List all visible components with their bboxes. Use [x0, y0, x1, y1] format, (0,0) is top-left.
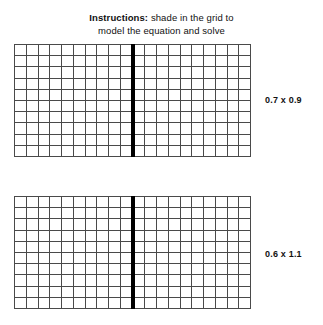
- grid-cell[interactable]: [62, 90, 74, 101]
- grid-cell[interactable]: [192, 197, 204, 208]
- grid-cell[interactable]: [169, 197, 181, 208]
- grid-cell[interactable]: [192, 253, 204, 264]
- grid-cell[interactable]: [239, 79, 251, 90]
- grid-cell[interactable]: [239, 67, 251, 78]
- grid-cell[interactable]: [97, 79, 109, 90]
- grid-cell[interactable]: [204, 253, 216, 264]
- grid-cell[interactable]: [50, 112, 62, 123]
- grid-cell[interactable]: [39, 45, 51, 56]
- grid-cell[interactable]: [192, 298, 204, 309]
- grid-cell[interactable]: [50, 67, 62, 78]
- grid-cell[interactable]: [134, 253, 146, 264]
- grid-cell[interactable]: [239, 253, 251, 264]
- grid-cell[interactable]: [228, 253, 240, 264]
- grid-cell[interactable]: [145, 135, 157, 146]
- grid-cell[interactable]: [216, 275, 228, 286]
- grid-cell[interactable]: [86, 123, 98, 134]
- grid-cell[interactable]: [15, 253, 27, 264]
- grid-cell[interactable]: [39, 112, 51, 123]
- grid-cell[interactable]: [216, 146, 228, 157]
- grid-cell[interactable]: [109, 56, 121, 67]
- grid-cell[interactable]: [228, 287, 240, 298]
- grid-cell[interactable]: [192, 275, 204, 286]
- grid-cell[interactable]: [239, 208, 251, 219]
- grid-cell[interactable]: [97, 197, 109, 208]
- grid-cell[interactable]: [15, 90, 27, 101]
- grid-cell[interactable]: [50, 135, 62, 146]
- grid-cell[interactable]: [109, 90, 121, 101]
- grid-cell[interactable]: [97, 231, 109, 242]
- grid-cell[interactable]: [239, 123, 251, 134]
- grid-cell[interactable]: [228, 123, 240, 134]
- grid-cell[interactable]: [228, 197, 240, 208]
- grid-cell[interactable]: [192, 45, 204, 56]
- grid-cell[interactable]: [192, 112, 204, 123]
- grid-cell[interactable]: [15, 67, 27, 78]
- grid-cell[interactable]: [157, 298, 169, 309]
- grid-cell[interactable]: [169, 253, 181, 264]
- grid-cell[interactable]: [169, 112, 181, 123]
- grid-cell[interactable]: [74, 253, 86, 264]
- grid-cell[interactable]: [192, 123, 204, 134]
- grid-cell[interactable]: [15, 287, 27, 298]
- grid-cell[interactable]: [157, 101, 169, 112]
- grid-cell[interactable]: [15, 298, 27, 309]
- grid-cell[interactable]: [239, 287, 251, 298]
- grid-cell[interactable]: [50, 253, 62, 264]
- grid-cell[interactable]: [181, 197, 193, 208]
- grid-cell[interactable]: [181, 146, 193, 157]
- grid-cell[interactable]: [157, 146, 169, 157]
- grid-cell[interactable]: [50, 298, 62, 309]
- grid-cell[interactable]: [216, 135, 228, 146]
- grid-cell[interactable]: [74, 298, 86, 309]
- grid-cell[interactable]: [39, 253, 51, 264]
- grid-cell[interactable]: [216, 287, 228, 298]
- grid-cell[interactable]: [181, 208, 193, 219]
- grid-cell[interactable]: [157, 79, 169, 90]
- grid-cell[interactable]: [74, 231, 86, 242]
- hundredths-grid-1-right[interactable]: [133, 44, 252, 157]
- grid-cell[interactable]: [134, 56, 146, 67]
- grid-cell[interactable]: [74, 67, 86, 78]
- grid-cell[interactable]: [239, 197, 251, 208]
- grid-cell[interactable]: [204, 219, 216, 230]
- grid-cell[interactable]: [109, 45, 121, 56]
- grid-cell[interactable]: [109, 287, 121, 298]
- grid-cell[interactable]: [204, 101, 216, 112]
- grid-cell[interactable]: [204, 79, 216, 90]
- grid-cell[interactable]: [181, 135, 193, 146]
- grid-cell[interactable]: [97, 264, 109, 275]
- grid-cell[interactable]: [97, 275, 109, 286]
- grid-cell[interactable]: [145, 287, 157, 298]
- grid-cell[interactable]: [192, 242, 204, 253]
- grid-cell[interactable]: [216, 123, 228, 134]
- grid-cell[interactable]: [62, 219, 74, 230]
- grid-cell[interactable]: [39, 231, 51, 242]
- grid-cell[interactable]: [109, 242, 121, 253]
- grid-cell[interactable]: [192, 56, 204, 67]
- grid-cell[interactable]: [169, 298, 181, 309]
- grid-cell[interactable]: [228, 56, 240, 67]
- grid-cell[interactable]: [109, 197, 121, 208]
- grid-cell[interactable]: [239, 112, 251, 123]
- grid-cell[interactable]: [181, 253, 193, 264]
- grid-cell[interactable]: [27, 242, 39, 253]
- grid-cell[interactable]: [181, 123, 193, 134]
- grid-cell[interactable]: [145, 67, 157, 78]
- grid-cell[interactable]: [228, 231, 240, 242]
- grid-cell[interactable]: [109, 67, 121, 78]
- grid-cell[interactable]: [169, 287, 181, 298]
- grid-cell[interactable]: [157, 90, 169, 101]
- grid-cell[interactable]: [50, 231, 62, 242]
- grid-cell[interactable]: [39, 90, 51, 101]
- grid-cell[interactable]: [86, 197, 98, 208]
- grid-cell[interactable]: [74, 197, 86, 208]
- grid-cell[interactable]: [204, 197, 216, 208]
- grid-cell[interactable]: [97, 287, 109, 298]
- grid-cell[interactable]: [204, 242, 216, 253]
- grid-cell[interactable]: [145, 56, 157, 67]
- grid-cell[interactable]: [62, 56, 74, 67]
- grid-cell[interactable]: [145, 146, 157, 157]
- grid-cell[interactable]: [27, 253, 39, 264]
- grid-cell[interactable]: [86, 242, 98, 253]
